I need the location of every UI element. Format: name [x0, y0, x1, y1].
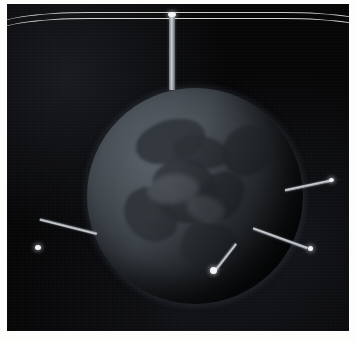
top-pole-node [168, 12, 176, 17]
render-viewport: ··· ··· [7, 4, 349, 331]
top-pole-boom [169, 14, 175, 90]
lower-right-boom-node [308, 246, 313, 251]
space-visualization-scene: ··· ··· [0, 0, 356, 342]
bottom-boom-node [210, 267, 217, 274]
left-boom-node [35, 245, 41, 250]
bottom-boom-label: ··· [219, 267, 224, 272]
atmosphere-glow [87, 88, 303, 304]
right-boom-label: ··· [337, 177, 342, 182]
right-boom-node [329, 178, 334, 182]
orbit-arc-lower [7, 18, 349, 49]
